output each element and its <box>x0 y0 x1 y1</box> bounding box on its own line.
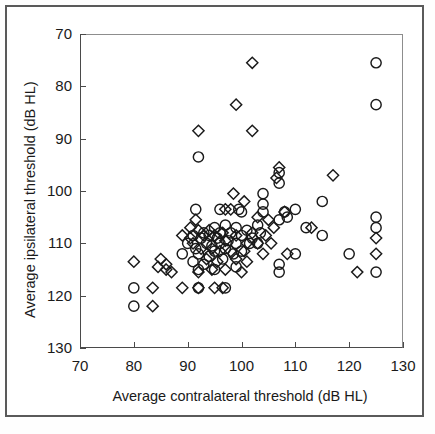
x-tick-label: 120 <box>326 358 372 373</box>
x-tick-label: 110 <box>272 358 318 373</box>
y-tick-mark <box>80 34 86 35</box>
x-axis-label: Average contralateral threshold (dB HL) <box>50 388 430 404</box>
x-tick-label: 90 <box>165 358 211 373</box>
x-tick-mark <box>295 342 296 348</box>
x-tick-mark <box>242 342 243 348</box>
x-tick-label: 80 <box>111 358 157 373</box>
y-tick-mark <box>80 86 86 87</box>
plot-area <box>80 34 403 348</box>
scatter-plot-figure: 130120110100908070708090100110120130 Ave… <box>0 0 435 434</box>
y-axis-label: Average ipsilateral threshold (dB HL) <box>22 81 38 318</box>
x-tick-label: 130 <box>380 358 426 373</box>
x-tick-mark <box>349 342 350 348</box>
y-tick-label: 130 <box>26 340 72 355</box>
x-tick-mark <box>80 342 81 348</box>
y-tick-mark <box>80 296 86 297</box>
x-tick-label: 70 <box>57 358 103 373</box>
y-tick-mark <box>80 139 86 140</box>
y-tick-mark <box>80 348 86 349</box>
y-tick-mark <box>80 191 86 192</box>
y-tick-mark <box>80 243 86 244</box>
x-tick-mark <box>134 342 135 348</box>
x-tick-mark <box>403 342 404 348</box>
y-tick-label: 70 <box>26 26 72 41</box>
x-tick-mark <box>188 342 189 348</box>
x-tick-label: 100 <box>219 358 265 373</box>
